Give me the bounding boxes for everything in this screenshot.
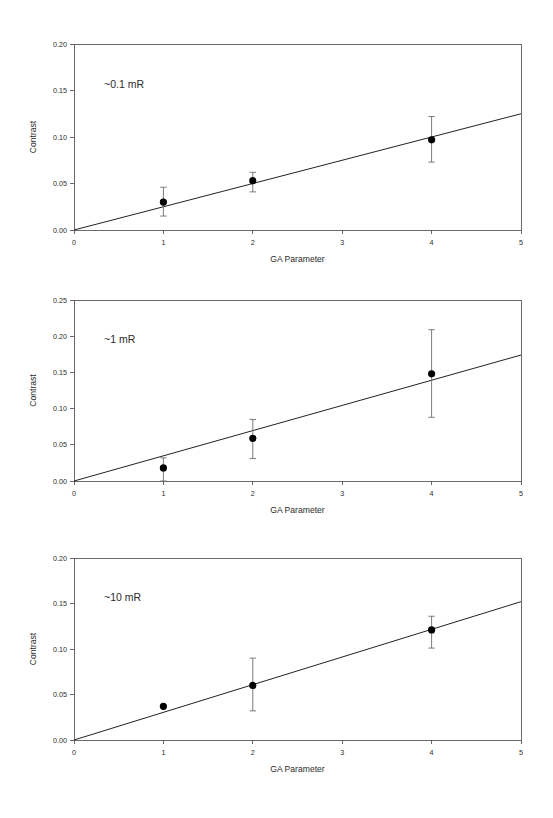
x-axis-title: GA Parameter (270, 254, 325, 264)
y-tick-label: 0.05 (53, 179, 67, 188)
x-tick-label: 1 (161, 748, 165, 757)
panel-1-plot: 0.000.050.100.150.200.25012345GA Paramet… (0, 272, 553, 528)
x-tick-label: 3 (340, 748, 344, 757)
regression-line (74, 602, 521, 740)
x-tick-label: 2 (251, 238, 255, 247)
x-tick-label: 3 (340, 489, 344, 498)
data-point (249, 435, 256, 442)
y-axis-ticks: 0.000.050.100.150.20 (53, 554, 74, 745)
data-series (160, 616, 435, 711)
y-axis-title: Contrast (28, 120, 38, 153)
y-tick-label: 0.25 (53, 296, 67, 305)
x-tick-label: 4 (430, 489, 434, 498)
y-tick-label: 0.10 (53, 133, 67, 142)
data-point (249, 177, 256, 184)
x-axis-ticks: 012345 (72, 230, 523, 247)
axis-frame (74, 558, 521, 740)
panel-2: 0.000.050.100.150.20012345GA ParameterCo… (0, 528, 553, 818)
y-tick-label: 0.20 (53, 40, 67, 49)
x-tick-label: 2 (251, 748, 255, 757)
y-axis-ticks: 0.000.050.100.150.20 (53, 40, 74, 235)
figure-three-panel-contrast-vs-ga-parameter: 0.000.050.100.150.20012345GA ParameterCo… (0, 0, 553, 818)
y-tick-label: 0.10 (53, 645, 67, 654)
x-axis-title: GA Parameter (270, 505, 325, 515)
x-tick-label: 3 (340, 238, 344, 247)
y-axis-ticks: 0.000.050.100.150.200.25 (53, 296, 74, 486)
y-tick-label: 0.00 (53, 736, 67, 745)
x-tick-label: 5 (519, 748, 523, 757)
dose-annotation: ~0.1 mR (104, 78, 144, 90)
y-axis-title: Contrast (28, 632, 38, 665)
x-tick-label: 4 (430, 748, 434, 757)
y-tick-label: 0.00 (53, 226, 67, 235)
panel-0: 0.000.050.100.150.20012345GA ParameterCo… (0, 0, 553, 272)
y-tick-label: 0.20 (53, 554, 67, 563)
data-point (160, 199, 167, 206)
data-point (160, 464, 167, 471)
x-tick-label: 4 (430, 238, 434, 247)
regression-line (74, 355, 521, 481)
y-axis-title: Contrast (28, 374, 38, 407)
y-tick-label: 0.15 (53, 599, 67, 608)
data-series (160, 330, 435, 481)
y-tick-label: 0.00 (53, 477, 67, 486)
y-tick-label: 0.20 (53, 332, 67, 341)
x-tick-label: 5 (519, 238, 523, 247)
y-tick-label: 0.15 (53, 368, 67, 377)
data-point (428, 370, 435, 377)
x-tick-label: 0 (72, 748, 76, 757)
axis-frame (74, 300, 521, 481)
x-axis-ticks: 012345 (72, 481, 523, 498)
data-point (160, 703, 167, 710)
axis-frame (74, 44, 521, 230)
x-tick-label: 0 (72, 489, 76, 498)
x-tick-label: 1 (161, 489, 165, 498)
dose-annotation: ~10 mR (104, 591, 141, 603)
x-tick-label: 1 (161, 238, 165, 247)
y-tick-label: 0.15 (53, 86, 67, 95)
x-axis-ticks: 012345 (72, 740, 523, 757)
y-tick-label: 0.05 (53, 440, 67, 449)
y-tick-label: 0.05 (53, 690, 67, 699)
x-tick-label: 2 (251, 489, 255, 498)
panel-1: 0.000.050.100.150.200.25012345GA Paramet… (0, 272, 553, 528)
dose-annotation: ~1 mR (104, 333, 136, 345)
regression-line (74, 114, 521, 230)
panel-0-plot: 0.000.050.100.150.20012345GA ParameterCo… (0, 0, 553, 272)
x-tick-label: 5 (519, 489, 523, 498)
data-point (428, 136, 435, 143)
data-point (428, 626, 435, 633)
data-point (249, 682, 256, 689)
data-series (160, 117, 435, 217)
panel-2-plot: 0.000.050.100.150.20012345GA ParameterCo… (0, 528, 553, 818)
x-tick-label: 0 (72, 238, 76, 247)
x-axis-title: GA Parameter (270, 764, 325, 774)
y-tick-label: 0.10 (53, 404, 67, 413)
